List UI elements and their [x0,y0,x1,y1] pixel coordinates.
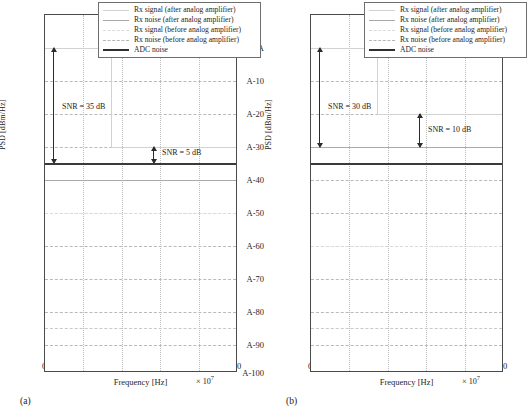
gridline-h-b40 [311,180,502,181]
series-rx-noise-before-amp-a [45,328,236,329]
series-rx-signal-after-amp-b-low [377,114,502,115]
y-tick-b-90: A-90 [247,341,264,350]
gridline-h-a60 [45,246,236,247]
gridline-v-b8 [465,15,466,371]
snr-annotation-5db: SNR = 5 dB [162,148,201,157]
x-mult-exp-a: 7 [211,374,214,381]
legend-item-rx-noise-before-b: Rx noise (before analog amplifier) [367,35,523,45]
gridline-h-a70 [45,279,236,280]
y-tick-b-20: A-20 [247,110,264,119]
gridline-v-4 [122,15,123,371]
legend-label-adc-noise: ADC noise [134,45,168,55]
gridline-h-b80 [311,312,502,313]
y-tick-b-30: A-30 [247,143,264,152]
gridline-h-b90 [311,345,502,346]
gridline-h-a80 [45,312,236,313]
y-tick-b-80: A-80 [247,308,264,317]
legend-line-sig-before-icon-b [369,30,395,31]
x-mult-exp-b: 7 [477,374,480,381]
legend-label-adc-noise-b: ADC noise [400,45,434,55]
legend-label-rx-signal-before: Rx signal (before analog amplifier) [134,25,241,35]
series-rx-signal-after-amp-a-step [111,48,112,147]
legend-line-noise-before-icon-b [369,40,395,41]
legend-b: Rx signal (after analog amplifier) Rx no… [364,2,527,58]
gridline-v-b4 [388,15,389,371]
gridline-h-b70 [311,279,502,280]
legend-a: Rx signal (after analog amplifier) Rx no… [98,2,261,58]
gridline-v-8 [199,15,200,371]
legend-line-sig-after-icon [103,10,129,11]
series-rx-signal-before-amp-b [311,246,502,247]
legend-label-rx-noise-before: Rx noise (before analog amplifier) [134,35,239,45]
snr-arrow-30db [319,48,320,147]
plot-area-b [310,14,503,372]
x-mult-base-b: × 10 [462,377,477,386]
y-tick-b-10: A-10 [247,77,264,86]
y-axis-label-b: PSD [dBm/Hz] [264,100,273,150]
legend-line-sig-after-icon-b [369,10,395,11]
y-tick-b-100: A-100 [242,369,264,378]
y-tick-b-70: A-70 [247,275,264,284]
panel-a: PSD [dBm/Hz] A A-10 A-20 A-30 A-40 A-50 … [0,0,266,419]
series-rx-noise-after-amp-a [45,180,236,181]
legend-item-rx-signal-after: Rx signal (after analog amplifier) [101,5,257,15]
snr-arrow-5db [153,147,154,163]
legend-label-rx-noise-before-b: Rx noise (before analog amplifier) [400,35,505,45]
legend-line-noise-after-icon-b [369,20,395,21]
figure-psd-comparison: PSD [dBm/Hz] A A-10 A-20 A-30 A-40 A-50 … [0,0,532,419]
snr-annotation-30db: SNR = 30 dB [328,102,371,111]
legend-item-rx-noise-after-b: Rx noise (after analog amplifier) [367,15,523,25]
y-tick-b-60: A-60 [247,242,264,251]
gridline-h-a90 [45,345,236,346]
legend-line-sig-before-icon [103,30,129,31]
legend-label-rx-signal-before-b: Rx signal (before analog amplifier) [400,25,507,35]
gridline-h-a20 [45,114,236,115]
snr-annotation-35db: SNR = 35 dB [62,102,105,111]
series-adc-noise-b [311,163,502,165]
snr-arrow-10db [419,114,420,147]
legend-item-adc-noise-b: ADC noise [367,45,523,55]
snr-annotation-10db: SNR = 10 dB [428,125,471,134]
plot-area-a [44,14,237,372]
legend-item-rx-signal-before-b: Rx signal (before analog amplifier) [367,25,523,35]
y-tick-b-50: A-50 [247,209,264,218]
legend-label-rx-signal-after-b: Rx signal (after analog amplifier) [400,5,502,15]
x-mult-base-a: × 10 [196,377,211,386]
gridline-v-b2 [349,15,350,371]
legend-line-noise-before-icon [103,40,129,41]
y-axis-label-a: PSD [dBm/Hz] [0,100,7,150]
legend-item-rx-signal-after-b: Rx signal (after analog amplifier) [367,5,523,15]
gridline-h-b10 [311,81,502,82]
series-rx-noise-after-amp-b [311,147,502,148]
gridline-h-b50 [311,213,502,214]
legend-label-rx-signal-after: Rx signal (after analog amplifier) [134,5,236,15]
gridline-v-2 [83,15,84,371]
legend-line-noise-after-icon [103,20,129,21]
legend-item-adc-noise: ADC noise [101,45,257,55]
legend-item-rx-noise-after: Rx noise (after analog amplifier) [101,15,257,25]
legend-item-rx-signal-before: Rx signal (before analog amplifier) [101,25,257,35]
series-adc-noise-a [45,163,236,165]
series-rx-noise-before-amp-b [311,328,502,329]
legend-item-rx-noise-before: Rx noise (before analog amplifier) [101,35,257,45]
snr-arrow-35db [53,48,54,163]
panel-label-a: (a) [20,396,31,406]
legend-line-adc-icon [103,49,129,51]
panel-b: PSD [dBm/Hz] A A-10 A-20 A-30 A-40 A-50 … [266,0,532,419]
panel-label-b: (b) [286,396,297,406]
series-rx-signal-before-amp-a [45,213,236,214]
gridline-v-b6 [426,15,427,371]
legend-label-rx-noise-after: Rx noise (after analog amplifier) [134,15,234,25]
gridline-v-6 [160,15,161,371]
gridline-h-a10 [45,81,236,82]
legend-label-rx-noise-after-b: Rx noise (after analog amplifier) [400,15,500,25]
y-tick-b-40: A-40 [247,176,264,185]
x-axis-multiplier-a: × 107 [196,374,214,386]
x-axis-multiplier-b: × 107 [462,374,480,386]
legend-line-adc-icon-b [369,49,395,51]
